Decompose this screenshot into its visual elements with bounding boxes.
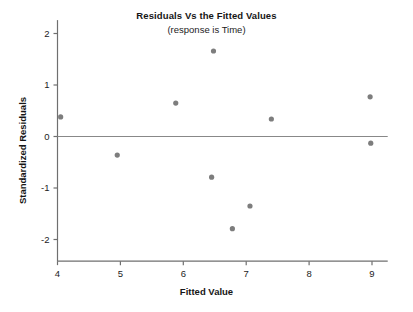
y-tick-label: 2 <box>44 28 49 39</box>
x-tick-label: 4 <box>55 268 60 279</box>
y-tick-label: -2 <box>41 234 49 245</box>
data-point <box>368 141 373 146</box>
data-point <box>247 203 252 208</box>
x-tick-label: 9 <box>369 268 374 279</box>
residuals-scatter-chart: Residuals Vs the Fitted Values (response… <box>0 0 413 312</box>
data-point <box>115 152 120 157</box>
x-tick-label: 6 <box>181 268 186 279</box>
data-point-series <box>58 48 373 231</box>
y-tick-label: 1 <box>44 79 49 90</box>
data-point <box>269 116 274 121</box>
data-point <box>211 48 216 53</box>
plot-area: 210-1-2 456789 <box>0 0 413 312</box>
y-tick-label: -1 <box>41 182 49 193</box>
y-tick-label: 0 <box>44 131 49 142</box>
data-point <box>230 226 235 231</box>
y-axis-ticks: 210-1-2 <box>41 28 57 245</box>
x-axis-ticks: 456789 <box>55 261 375 279</box>
data-point <box>58 114 63 119</box>
x-tick-label: 5 <box>118 268 123 279</box>
data-point <box>368 94 373 99</box>
data-point <box>209 175 214 180</box>
x-tick-label: 7 <box>244 268 249 279</box>
data-point <box>173 100 178 105</box>
x-tick-label: 8 <box>306 268 311 279</box>
